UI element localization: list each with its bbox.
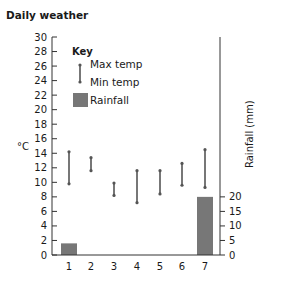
min-temp-point — [180, 184, 183, 187]
min-temp-point — [135, 201, 138, 204]
key-min-label: Min temp — [90, 76, 140, 88]
y-tick-label: 8 — [41, 191, 47, 202]
min-temp-point — [203, 186, 206, 189]
y-tick-label: 28 — [34, 46, 47, 57]
key-title: Key — [72, 46, 93, 57]
x-tick-label: 3 — [111, 261, 117, 272]
y-tick-label: 20 — [34, 104, 47, 115]
max-temp-point — [180, 162, 183, 165]
y2-tick-label: 15 — [229, 206, 242, 217]
rainfall-bar — [197, 197, 213, 255]
x-tick-label: 4 — [134, 261, 140, 272]
y2-tick-label: 5 — [229, 235, 235, 246]
y2-axis-label: Rainfall (mm) — [244, 100, 255, 168]
key-min-point-icon — [78, 80, 81, 83]
key-rain-label: Rainfall — [90, 94, 129, 106]
x-tick-label: 2 — [88, 261, 94, 272]
rainfall-bar — [61, 243, 77, 255]
y-axis-label: °C — [17, 141, 29, 152]
min-temp-point — [67, 182, 70, 185]
x-tick-label: 7 — [202, 261, 208, 272]
max-temp-point — [112, 181, 115, 184]
key-rainfall-swatch — [73, 93, 88, 107]
y2-tick-label: 10 — [229, 220, 242, 231]
x-tick-label: 6 — [179, 261, 185, 272]
max-temp-point — [158, 169, 161, 172]
y-tick-label: 24 — [34, 75, 47, 86]
y-tick-label: 16 — [34, 133, 47, 144]
weather-chart: 024681012141618202224262830°C05101520Rai… — [0, 0, 284, 291]
y-tick-label: 10 — [34, 177, 47, 188]
y-tick-label: 30 — [34, 32, 47, 43]
y-tick-label: 22 — [34, 90, 47, 101]
key-max-point-icon — [78, 63, 81, 66]
y-tick-label: 2 — [41, 235, 47, 246]
min-temp-point — [158, 192, 161, 195]
y-tick-label: 18 — [34, 119, 47, 130]
y2-tick-label: 0 — [229, 250, 235, 261]
min-temp-point — [112, 194, 115, 197]
y-tick-label: 6 — [41, 206, 47, 217]
max-temp-point — [135, 169, 138, 172]
max-temp-point — [89, 156, 92, 159]
key-max-label: Max temp — [90, 58, 143, 70]
x-tick-label: 5 — [157, 261, 163, 272]
min-temp-point — [89, 169, 92, 172]
max-temp-point — [203, 148, 206, 151]
x-tick-label: 1 — [66, 261, 72, 272]
y-tick-label: 14 — [34, 148, 47, 159]
max-temp-point — [67, 150, 70, 153]
y-tick-label: 0 — [41, 250, 47, 261]
y-tick-label: 12 — [34, 162, 47, 173]
y2-tick-label: 20 — [229, 191, 242, 202]
y-tick-label: 26 — [34, 61, 47, 72]
y-tick-label: 4 — [41, 220, 47, 231]
